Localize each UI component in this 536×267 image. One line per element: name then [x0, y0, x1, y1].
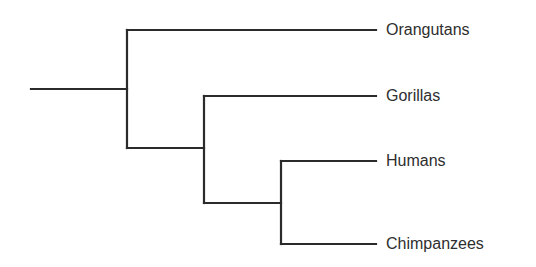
label-gorillas: Gorillas	[386, 88, 440, 104]
label-orangutans: Orangutans	[386, 22, 470, 38]
label-chimpanzees: Chimpanzees	[386, 236, 484, 252]
label-humans: Humans	[386, 153, 446, 169]
cladogram	[0, 0, 536, 267]
